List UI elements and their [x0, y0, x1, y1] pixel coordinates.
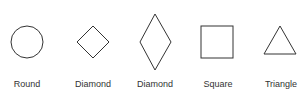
tall-diamond-shape — [140, 14, 171, 70]
square-shape — [201, 26, 233, 58]
diamond-shape — [77, 26, 109, 58]
round-shape — [11, 26, 43, 58]
triangle-label: Triangle — [265, 79, 297, 89]
diamond-label: Diamond — [75, 79, 111, 89]
triangle-shape — [264, 26, 296, 54]
tall-diamond-label: Diamond — [137, 79, 173, 89]
round-label: Round — [14, 79, 41, 89]
square-label: Square — [203, 79, 232, 89]
